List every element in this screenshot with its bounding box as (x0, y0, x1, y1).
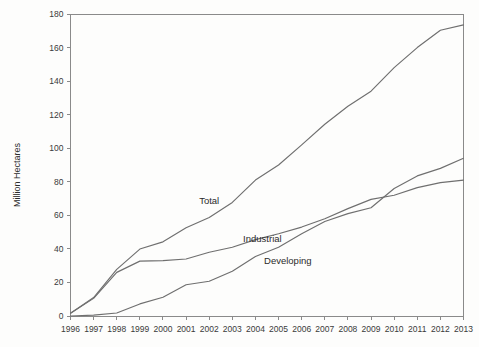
x-axis-ticks: 1996199719981999200020012002200320042005… (61, 316, 473, 334)
x-tick-label: 2013 (454, 324, 473, 334)
line-chart: 020406080100120140160180 199619971998199… (0, 0, 479, 347)
x-tick-label: 2012 (431, 324, 450, 334)
x-tick-label: 2000 (154, 324, 173, 334)
x-tick-label: 1998 (107, 324, 126, 334)
plot-frame (71, 14, 465, 317)
x-tick-label: 2005 (269, 324, 288, 334)
y-tick-label: 60 (54, 210, 64, 220)
y-tick-label: 100 (49, 143, 63, 153)
y-tick-label: 80 (54, 177, 64, 187)
y-tick-label: 40 (54, 244, 64, 254)
y-tick-label: 0 (59, 311, 64, 321)
x-tick-label: 2007 (315, 324, 334, 334)
series-line-total (71, 25, 464, 313)
y-tick-label: 120 (49, 110, 63, 120)
series-label-developing: Developing (264, 255, 312, 266)
y-tick-label: 180 (49, 9, 63, 19)
x-tick-label: 2006 (292, 324, 311, 334)
x-tick-label: 2010 (385, 324, 404, 334)
x-tick-label: 2011 (408, 324, 427, 334)
series-lines (71, 25, 464, 316)
series-label-industrial: Industrial (243, 233, 282, 244)
series-line-industrial (71, 180, 464, 313)
x-tick-label: 2004 (246, 324, 265, 334)
x-tick-label: 2009 (362, 324, 381, 334)
x-tick-label: 1999 (130, 324, 149, 334)
series-label-total: Total (199, 195, 219, 206)
x-tick-label: 2003 (223, 324, 242, 334)
y-tick-label: 160 (49, 43, 63, 53)
y-axis-title: Million Hectares (12, 142, 22, 207)
x-tick-label: 1996 (61, 324, 80, 334)
y-tick-label: 20 (54, 277, 64, 287)
x-tick-label: 2001 (177, 324, 196, 334)
chart-container: 020406080100120140160180 199619971998199… (0, 0, 479, 347)
x-tick-label: 2002 (200, 324, 219, 334)
series-labels: TotalIndustrialDeveloping (199, 195, 311, 266)
y-tick-label: 140 (49, 76, 63, 86)
y-axis-ticks: 020406080100120140160180 (49, 9, 70, 321)
x-tick-label: 2008 (338, 324, 357, 334)
x-tick-label: 1997 (84, 324, 103, 334)
